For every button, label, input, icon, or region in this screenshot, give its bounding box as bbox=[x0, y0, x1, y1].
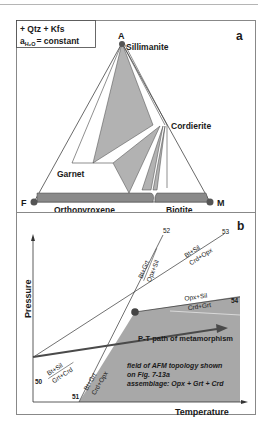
garnet-label: Garnet bbox=[57, 169, 85, 179]
legend-line1: + Qtz + Kfs bbox=[20, 24, 65, 34]
apex-m-point bbox=[207, 199, 214, 206]
field-note-line2: on Fig. 7-13a bbox=[127, 371, 170, 379]
pressure-label: Pressure bbox=[23, 279, 33, 318]
temperature-label: Temperature bbox=[175, 407, 229, 417]
cordierite-label: Cordierite bbox=[171, 121, 211, 131]
reaction-52-number: 52 bbox=[163, 227, 171, 234]
figure-svg: + Qtz + Kfs aH₂O= constant a A F M Silli… bbox=[0, 0, 268, 440]
reaction-53-number: 53 bbox=[222, 228, 230, 235]
field-note-line3: assemblage: Opx + Grt + Crd bbox=[127, 380, 224, 388]
invariant-point bbox=[131, 308, 139, 316]
reaction-50-number: 50 bbox=[35, 378, 43, 385]
panel-a-letter: a bbox=[236, 29, 243, 43]
biotite-bar bbox=[155, 193, 209, 202]
field-note-line1: field of AFM topology shown bbox=[127, 362, 222, 370]
apex-f-point bbox=[31, 199, 38, 206]
panel-b-letter: b bbox=[237, 219, 244, 233]
reaction-54-number: 54 bbox=[231, 297, 239, 304]
panel-a: + Qtz + Kfs aH₂O= constant a A F M Silli… bbox=[17, 21, 256, 216]
sillimanite-label: Sillimanite bbox=[126, 42, 169, 52]
reaction-51-number: 51 bbox=[72, 393, 80, 400]
orthopyroxene-bar bbox=[37, 193, 154, 202]
pt-path-label: P-T path of metamorphism bbox=[138, 334, 233, 343]
apex-f-label: F bbox=[21, 198, 27, 208]
apex-a-label: A bbox=[118, 31, 125, 41]
panel-b: b Pressure Temperature 52 53 54 50 51 Bt… bbox=[17, 213, 256, 418]
apex-m-label: M bbox=[217, 198, 225, 208]
apex-a-point bbox=[119, 41, 125, 47]
